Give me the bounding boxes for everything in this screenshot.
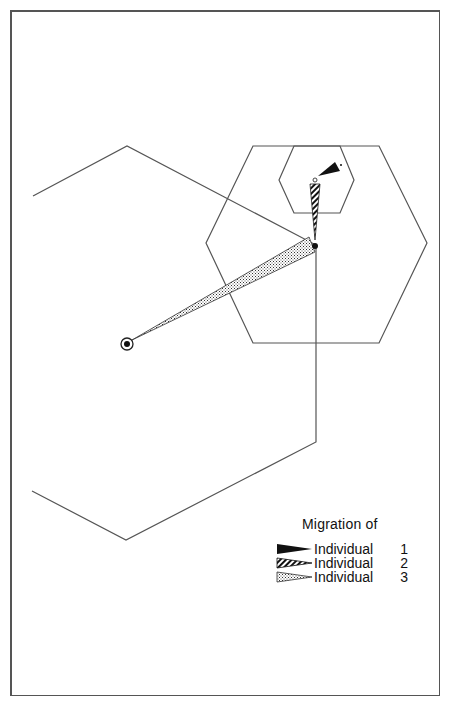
hatched-wedge-icon <box>276 557 312 569</box>
migration-wedge-individual-3 <box>132 237 315 340</box>
origin-marker-dot <box>124 341 130 347</box>
legend-item-individual-2: Individual 2 <box>276 556 408 570</box>
legend-item-individual-1: Individual 1 <box>276 542 408 556</box>
small-hex-point-marker <box>313 178 317 182</box>
individual-1-endpoint-dot <box>340 164 342 166</box>
legend: Migration of Individual 1 Individual 2 I… <box>276 516 408 584</box>
junction-marker <box>312 243 318 249</box>
migration-diagram <box>0 0 454 704</box>
stippled-wedge-icon <box>276 571 312 583</box>
legend-title: Migration of <box>302 516 408 532</box>
legend-item-individual-3: Individual 3 <box>276 570 408 584</box>
solid-wedge-icon <box>276 543 312 555</box>
migration-wedge-individual-2 <box>310 184 320 240</box>
migration-wedge-individual-1 <box>318 162 340 176</box>
